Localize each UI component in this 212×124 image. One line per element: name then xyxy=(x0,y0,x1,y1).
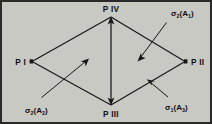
paren-close-2: ) xyxy=(45,106,48,115)
vertical-axis-p4-p3 xyxy=(108,17,115,106)
rhombus-diagram: P IV P I P II P III σ2(A1) σ2(A2) σ1(A3) xyxy=(0,0,212,124)
leader-line-sigma2-a2 xyxy=(42,62,86,98)
paren-close-1: ) xyxy=(191,9,194,18)
leader-sigma1-a3 xyxy=(147,79,169,97)
vertex-marker-p1 xyxy=(30,59,33,63)
leader-line-sigma2-a1 xyxy=(141,23,167,58)
annotation-sigma2-a1: σ2(A1) xyxy=(171,9,194,19)
vertex-marker-p2 xyxy=(184,59,187,63)
vertex-label-p1: P I xyxy=(15,58,26,67)
arrowhead-sigma2-a2-icon xyxy=(81,59,89,67)
leader-sigma2-a1 xyxy=(138,23,167,62)
edge-p4-p2 xyxy=(111,17,185,62)
edge-p1-p4 xyxy=(32,17,111,62)
leader-line-sigma1-a3 xyxy=(150,82,168,97)
edge-p2-p3 xyxy=(111,62,185,106)
figure-canvas: P IV P I P II P III σ2(A1) σ2(A2) σ1(A3) xyxy=(0,0,212,124)
edge-p3-p1 xyxy=(32,62,111,106)
vertex-label-p2: P II xyxy=(191,58,204,67)
vertex-label-p4: P IV xyxy=(103,5,120,14)
vertex-label-p3: P III xyxy=(103,110,119,119)
annotation-sigma1-a3: σ1(A3) xyxy=(165,103,188,113)
annotation-sigma2-a2: σ2(A2) xyxy=(25,106,48,116)
arrowhead-sigma2-a1-icon xyxy=(138,53,146,62)
paren-close-3: ) xyxy=(185,103,188,112)
leader-sigma2-a2 xyxy=(42,59,90,98)
